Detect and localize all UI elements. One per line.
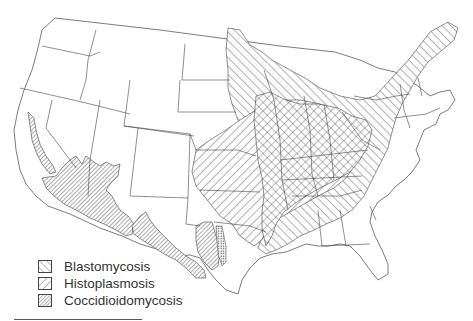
legend-item-blastomycosis: Blastomycosis [38,258,183,275]
legend-item-coccidioidomycosis: Coccidioidomycosis [38,292,183,309]
hatch-forward-icon [38,260,52,273]
hatch-back-icon [38,277,52,290]
legend: Blastomycosis Histoplasmosis Coccidioido… [38,258,183,309]
legend-label: Blastomycosis [64,259,150,274]
divider-rule [14,319,142,320]
hatch-dense-icon [38,294,52,307]
legend-item-histoplasmosis: Histoplasmosis [38,275,183,292]
legend-label: Histoplasmosis [64,276,155,291]
legend-label: Coccidioidomycosis [64,293,183,308]
